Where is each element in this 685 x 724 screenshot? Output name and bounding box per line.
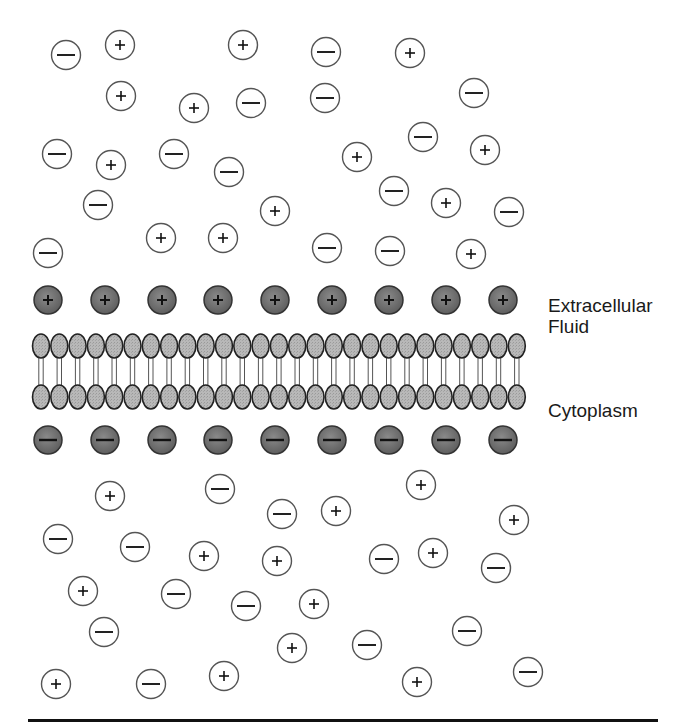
phospholipid-icon: [69, 334, 86, 409]
phospholipid-icon: [453, 334, 470, 409]
bound-positive-ion-icon: [489, 286, 517, 314]
phospholipid-icon: [124, 334, 141, 409]
phospholipid-icon: [362, 334, 379, 409]
phospholipid-icon: [307, 334, 324, 409]
phospholipid-icon: [472, 334, 489, 409]
phospholipid-icon: [51, 334, 68, 409]
positive-ion-icon: [419, 539, 448, 568]
phospholipid-icon: [344, 334, 361, 409]
lipid-bilayer: [33, 334, 526, 409]
negative-ion-icon: [162, 580, 191, 609]
phospholipid-icon: [161, 334, 178, 409]
phospholipid-icon: [270, 334, 287, 409]
bound-positive-ion-icon: [91, 286, 119, 314]
phospholipid-icon: [435, 334, 452, 409]
phospholipid-icon: [197, 334, 214, 409]
bound-negative-ion-icon: [318, 426, 346, 454]
bound-positive-ion-icon: [318, 286, 346, 314]
positive-ion-icon: [209, 224, 238, 253]
bound-positive-ion-icon: [261, 286, 289, 314]
phospholipid-icon: [490, 334, 507, 409]
phospholipid-icon: [87, 334, 104, 409]
positive-ion-icon: [106, 31, 135, 60]
negative-ion-icon: [206, 475, 235, 504]
positive-ion-icon: [322, 497, 351, 526]
negative-ion-icon: [43, 140, 72, 169]
phospholipid-icon: [417, 334, 434, 409]
bound-negative-ion-row: [34, 426, 517, 454]
bound-negative-ion-icon: [432, 426, 460, 454]
extracellular-label-line2: Fluid: [548, 316, 653, 337]
bound-positive-ion-row: [34, 286, 517, 314]
bound-negative-ion-icon: [91, 426, 119, 454]
negative-ion-icon: [313, 234, 342, 263]
bound-negative-ion-icon: [375, 426, 403, 454]
negative-ion-icon: [268, 500, 297, 529]
phospholipid-icon: [142, 334, 159, 409]
phospholipid-icon: [216, 334, 233, 409]
extracellular-fluid-label: Extracellular Fluid: [548, 295, 653, 337]
positive-ion-icon: [343, 143, 372, 172]
negative-ion-icon: [370, 545, 399, 574]
negative-ion-icon: [121, 533, 150, 562]
positive-ion-icon: [300, 590, 329, 619]
bound-negative-ion-icon: [204, 426, 232, 454]
negative-ion-icon: [137, 670, 166, 699]
phospholipid-icon: [179, 334, 196, 409]
positive-ion-icon: [210, 662, 239, 691]
positive-ion-icon: [147, 224, 176, 253]
bound-negative-ion-icon: [148, 426, 176, 454]
negative-ion-icon: [52, 41, 81, 70]
negative-ion-icon: [514, 658, 543, 687]
phospholipid-icon: [234, 334, 251, 409]
positive-ion-icon: [42, 670, 71, 699]
negative-ion-icon: [482, 554, 511, 583]
positive-ion-icon: [96, 482, 125, 511]
negative-ion-icon: [495, 198, 524, 227]
positive-ion-icon: [278, 634, 307, 663]
negative-ion-icon: [44, 525, 73, 554]
bound-positive-ion-icon: [432, 286, 460, 314]
negative-ion-icon: [312, 38, 341, 67]
diagram-canvas: [0, 0, 685, 724]
cytoplasm-label: Cytoplasm: [548, 400, 638, 421]
negative-ion-icon: [409, 123, 438, 152]
bound-negative-ion-icon: [261, 426, 289, 454]
positive-ion-icon: [190, 542, 219, 571]
positive-ion-icon: [403, 668, 432, 697]
bound-positive-ion-icon: [148, 286, 176, 314]
extracellular-label-line1: Extracellular: [548, 295, 653, 316]
negative-ion-icon: [353, 631, 382, 660]
phospholipid-icon: [380, 334, 397, 409]
positive-ion-icon: [180, 94, 209, 123]
negative-ion-icon: [215, 158, 244, 187]
positive-ion-icon: [107, 82, 136, 111]
negative-ion-icon: [376, 237, 405, 266]
bound-positive-ion-icon: [34, 286, 62, 314]
positive-ion-icon: [69, 577, 98, 606]
negative-ion-icon: [160, 140, 189, 169]
phospholipid-icon: [325, 334, 342, 409]
phospholipid-icon: [508, 334, 525, 409]
phospholipid-icon: [106, 334, 123, 409]
negative-ion-icon: [237, 89, 266, 118]
negative-ion-icon: [460, 79, 489, 108]
positive-ion-icon: [407, 471, 436, 500]
positive-ion-icon: [432, 189, 461, 218]
phospholipid-icon: [252, 334, 269, 409]
bottom-rule: [28, 719, 658, 722]
negative-ion-icon: [84, 191, 113, 220]
positive-ion-icon: [457, 240, 486, 269]
phospholipid-icon: [33, 334, 50, 409]
negative-ion-icon: [232, 592, 261, 621]
positive-ion-icon: [396, 39, 425, 68]
bound-negative-ion-icon: [489, 426, 517, 454]
positive-ion-icon: [263, 547, 292, 576]
negative-ion-icon: [380, 177, 409, 206]
extracellular-ion-group: [34, 31, 524, 269]
positive-ion-icon: [229, 31, 258, 60]
negative-ion-icon: [453, 617, 482, 646]
bound-positive-ion-icon: [204, 286, 232, 314]
positive-ion-icon: [261, 197, 290, 226]
negative-ion-icon: [34, 239, 63, 268]
